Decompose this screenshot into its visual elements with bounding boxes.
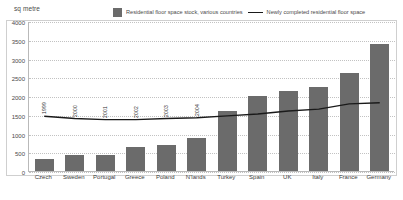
gridline: 0 <box>29 172 395 173</box>
bar <box>126 147 145 171</box>
legend-item-line: Newly completed residential floor space <box>248 10 366 16</box>
bar <box>187 138 206 171</box>
y-axis-tick-label: 1000 <box>12 133 25 139</box>
legend-bar-swatch <box>113 8 122 17</box>
bar-slot: 2004 <box>182 21 213 171</box>
x-axis-category-label: Italy <box>303 174 334 180</box>
x-axis-category-label: Turkey <box>211 174 242 180</box>
y-axis-tick-label: 2500 <box>12 76 25 82</box>
x-axis-category-label: France <box>333 174 364 180</box>
bar-slot: 2006 <box>243 21 274 171</box>
bar <box>35 159 54 171</box>
x-axis-category-label: Germany <box>364 174 395 180</box>
x-axis-category-label: Poland <box>150 174 181 180</box>
bar <box>248 96 267 171</box>
bar <box>370 44 389 172</box>
bar-slot: 2001 <box>90 21 121 171</box>
point-year-label: 1999 <box>42 102 47 114</box>
legend-bar-label: Residential floor space stock, various c… <box>126 10 243 16</box>
bar-slot: 2007 <box>273 21 304 171</box>
legend-line-label: Newly completed residential floor space <box>267 10 366 16</box>
point-year-label: 2000 <box>72 105 77 117</box>
x-axis-labels: CzechSwedenPortugalGreecePolandN'landsTu… <box>28 174 394 180</box>
y-axis-tick-label: 2000 <box>12 95 25 101</box>
bar <box>65 155 84 171</box>
x-axis-category-label: Spain <box>242 174 273 180</box>
point-year-label: 2003 <box>164 105 169 117</box>
bar <box>157 145 176 171</box>
bar-slot: 1999 <box>29 21 60 171</box>
x-axis-category-label: N'lands <box>181 174 212 180</box>
legend-item-bar: Residential floor space stock, various c… <box>113 8 243 17</box>
y-axis-tick-label: 0 <box>22 170 25 176</box>
bar <box>309 87 328 171</box>
bar <box>96 155 115 171</box>
bar-slot: 2000 <box>60 21 91 171</box>
y-axis-tick-label: 4000 <box>12 20 25 26</box>
bar <box>218 111 237 171</box>
y-axis-tick-label: 500 <box>15 151 25 157</box>
bar-slot: 2005 <box>212 21 243 171</box>
x-axis-category-label: Czech <box>28 174 59 180</box>
plot-area: 05001000150020002500300035004000 1999200… <box>28 22 394 172</box>
bar-slot: 2010 <box>365 21 396 171</box>
y-axis-tick-label: 3000 <box>12 58 25 64</box>
bar <box>279 91 298 171</box>
bar-slot: 2003 <box>151 21 182 171</box>
bar-series: 1999200020012002200320042005200620072008… <box>29 21 395 171</box>
x-axis-category-label: Sweden <box>59 174 90 180</box>
bar <box>340 73 359 171</box>
bar-slot: 2009 <box>334 21 365 171</box>
x-axis-category-label: UK <box>272 174 303 180</box>
point-year-label: 2001 <box>103 106 108 118</box>
y-axis-unit-caption: sq metre <box>14 5 40 12</box>
chart-container: sq metre Residential floor space stock, … <box>0 0 403 200</box>
x-axis-category-label: Greece <box>120 174 151 180</box>
point-year-label: 2004 <box>194 104 199 116</box>
y-axis-tick-label: 3500 <box>12 39 25 45</box>
point-year-label: 2002 <box>133 106 138 118</box>
y-axis-tick-label: 1500 <box>12 114 25 120</box>
bar-slot: 2008 <box>304 21 335 171</box>
bar-slot: 2002 <box>121 21 152 171</box>
chart-legend: Residential floor space stock, various c… <box>113 8 365 17</box>
legend-line-swatch <box>248 12 263 13</box>
x-axis-category-label: Portugal <box>89 174 120 180</box>
